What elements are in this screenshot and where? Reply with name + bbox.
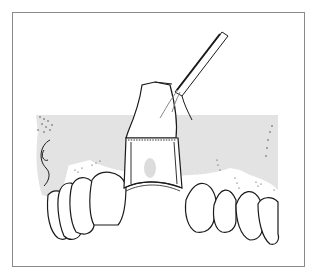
illustration-canvas (0, 0, 312, 273)
dental-illustration (0, 0, 312, 273)
left-central-incisor (90, 172, 126, 225)
tooth-shadow (144, 158, 156, 178)
